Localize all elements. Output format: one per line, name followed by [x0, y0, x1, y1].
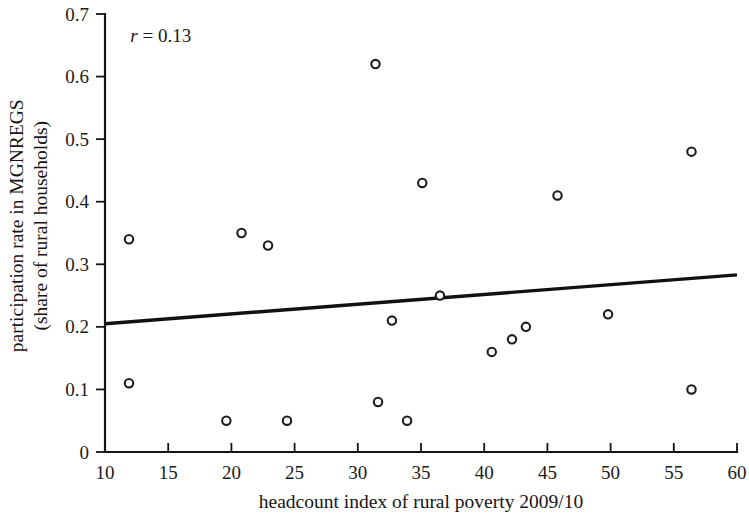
y-tick-label-1: 0.1	[65, 379, 89, 400]
x-axis-title: headcount index of rural poverty 2009/10	[259, 491, 583, 512]
data-point	[283, 417, 291, 425]
x-tick-label-8: 50	[601, 462, 620, 483]
data-point	[508, 335, 516, 343]
y-tick-label-3: 0.3	[65, 254, 89, 275]
data-point	[403, 417, 411, 425]
y-axis-title: participation rate in MGNREGS (share of …	[0, 0, 56, 452]
x-tick-label-4: 30	[348, 462, 367, 483]
x-tick-label-0: 10	[96, 462, 115, 483]
data-point	[374, 398, 382, 406]
data-point	[125, 235, 133, 243]
data-point	[264, 241, 272, 249]
data-point	[371, 60, 379, 68]
data-point	[553, 191, 561, 199]
y-tick-label-5: 0.5	[65, 129, 89, 150]
data-point	[436, 291, 444, 299]
data-point	[687, 147, 695, 155]
y-tick-label-7: 0.7	[65, 4, 89, 25]
y-axis-title-line2: (share of rural households)	[28, 100, 52, 353]
x-tick-label-9: 55	[664, 462, 683, 483]
data-point	[388, 316, 396, 324]
x-tick-label-1: 15	[159, 462, 178, 483]
data-point	[418, 179, 426, 187]
y-tick-label-2: 0.2	[65, 316, 89, 337]
y-tick-label-6: 0.6	[65, 66, 89, 87]
x-tick-label-5: 35	[412, 462, 431, 483]
x-tick-label-2: 20	[222, 462, 241, 483]
y-tick-label-4: 0.4	[65, 191, 89, 212]
plot-canvas: 00.10.20.30.40.50.60.7101520253035404550…	[0, 0, 749, 519]
correlation-annotation: r = 0.13	[130, 25, 191, 46]
x-tick-label-7: 45	[538, 462, 557, 483]
data-point	[522, 323, 530, 331]
data-point	[222, 417, 230, 425]
data-point	[687, 385, 695, 393]
x-tick-label-10: 60	[728, 462, 747, 483]
data-point	[604, 310, 612, 318]
data-point	[237, 229, 245, 237]
scatter-plot-figure: 00.10.20.30.40.50.60.7101520253035404550…	[0, 0, 749, 519]
data-point	[488, 348, 496, 356]
y-tick-label-0: 0	[80, 442, 90, 463]
trend-line	[105, 275, 737, 324]
y-axis-title-line1: participation rate in MGNREGS	[4, 100, 28, 353]
x-tick-label-3: 25	[285, 462, 304, 483]
x-tick-label-6: 40	[475, 462, 494, 483]
data-point	[125, 379, 133, 387]
